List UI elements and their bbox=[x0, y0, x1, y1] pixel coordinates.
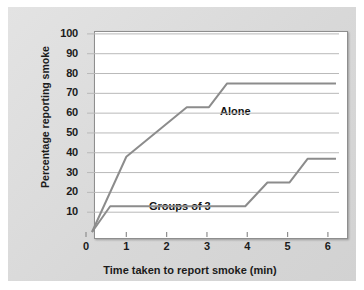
x-axis-tick-label: 6 bbox=[316, 240, 340, 252]
y-axis-tick-label: 10 bbox=[38, 205, 78, 217]
x-axis-tick-label: 1 bbox=[114, 240, 138, 252]
series-label-groups-of-3: Groups of 3 bbox=[149, 200, 211, 212]
figure-container: Percentage reporting smoke Time taken to… bbox=[0, 0, 364, 290]
x-axis-tick-label: 2 bbox=[155, 240, 179, 252]
y-axis-tick-label: 90 bbox=[38, 47, 78, 59]
y-axis-tick-label: 30 bbox=[38, 166, 78, 178]
x-axis-tick-label: 0 bbox=[74, 240, 98, 252]
y-axis-tick-label: 60 bbox=[38, 106, 78, 118]
x-axis-title: Time taken to report smoke (min) bbox=[8, 264, 364, 276]
y-axis-tick-label: 40 bbox=[38, 146, 78, 158]
y-axis-tick-label: 50 bbox=[38, 126, 78, 138]
series-label-alone: Alone bbox=[220, 105, 251, 117]
x-axis-tick-label: 4 bbox=[235, 240, 259, 252]
y-axis-tick-label: 100 bbox=[38, 27, 78, 39]
plot-area bbox=[94, 31, 348, 239]
y-axis-tick-label: 20 bbox=[38, 185, 78, 197]
y-axis-tick-label: 70 bbox=[38, 86, 78, 98]
chart-panel: Percentage reporting smoke Time taken to… bbox=[8, 7, 356, 281]
y-axis-tick-label: 80 bbox=[38, 67, 78, 79]
x-axis-tick-label: 3 bbox=[195, 240, 219, 252]
x-axis-tick-label: 5 bbox=[276, 240, 300, 252]
